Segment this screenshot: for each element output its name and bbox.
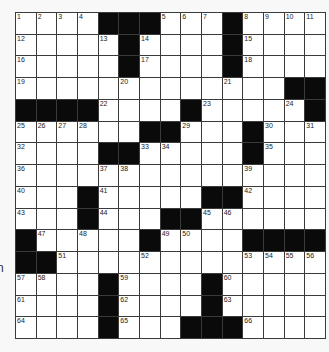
grid-cell[interactable]: 49 (161, 230, 181, 251)
grid-cell[interactable] (37, 165, 57, 186)
grid-cell[interactable] (99, 78, 119, 99)
grid-cell[interactable] (99, 252, 119, 273)
grid-cell[interactable] (264, 165, 284, 186)
grid-cell[interactable]: 62 (119, 296, 139, 317)
grid-cell[interactable] (161, 296, 181, 317)
grid-cell[interactable] (140, 209, 160, 230)
grid-cell[interactable] (78, 165, 98, 186)
grid-cell[interactable]: 24 (285, 100, 305, 121)
grid-cell[interactable] (161, 317, 181, 338)
grid-cell[interactable] (78, 78, 98, 99)
grid-cell[interactable] (37, 317, 57, 338)
grid-cell[interactable]: 47 (37, 230, 57, 251)
grid-cell[interactable] (223, 252, 243, 273)
grid-cell[interactable] (202, 122, 222, 143)
grid-cell[interactable]: 19 (16, 78, 36, 99)
grid-cell[interactable]: 40 (16, 187, 36, 208)
grid-cell[interactable] (223, 122, 243, 143)
grid-cell[interactable]: 66 (243, 317, 263, 338)
grid-cell[interactable]: 15 (243, 35, 263, 56)
grid-cell[interactable]: 59 (119, 274, 139, 295)
grid-cell[interactable] (99, 230, 119, 251)
grid-cell[interactable]: 5 (161, 13, 181, 34)
grid-cell[interactable]: 36 (16, 165, 36, 186)
grid-cell[interactable] (57, 187, 77, 208)
grid-cell[interactable]: 63 (223, 296, 243, 317)
grid-cell[interactable] (243, 100, 263, 121)
grid-cell[interactable]: 64 (16, 317, 36, 338)
grid-cell[interactable] (119, 187, 139, 208)
grid-cell[interactable]: 31 (305, 122, 325, 143)
grid-cell[interactable]: 53 (243, 252, 263, 273)
grid-cell[interactable] (202, 56, 222, 77)
grid-cell[interactable]: 12 (16, 35, 36, 56)
grid-cell[interactable] (181, 296, 201, 317)
grid-cell[interactable] (285, 209, 305, 230)
grid-cell[interactable] (202, 230, 222, 251)
grid-cell[interactable]: 34 (161, 143, 181, 164)
grid-cell[interactable]: 56 (305, 252, 325, 273)
grid-cell[interactable] (305, 317, 325, 338)
grid-cell[interactable] (119, 252, 139, 273)
grid-cell[interactable] (285, 274, 305, 295)
grid-cell[interactable] (181, 274, 201, 295)
grid-cell[interactable]: 37 (99, 165, 119, 186)
grid-cell[interactable] (161, 274, 181, 295)
grid-cell[interactable]: 22 (99, 100, 119, 121)
grid-cell[interactable] (181, 252, 201, 273)
grid-cell[interactable]: 52 (140, 252, 160, 273)
grid-cell[interactable]: 61 (16, 296, 36, 317)
grid-cell[interactable] (161, 100, 181, 121)
grid-cell[interactable] (264, 56, 284, 77)
grid-cell[interactable] (78, 35, 98, 56)
grid-cell[interactable] (57, 209, 77, 230)
grid-cell[interactable] (161, 165, 181, 186)
grid-cell[interactable]: 28 (78, 122, 98, 143)
grid-cell[interactable]: 10 (285, 13, 305, 34)
grid-cell[interactable] (140, 100, 160, 121)
grid-cell[interactable]: 46 (223, 209, 243, 230)
grid-cell[interactable] (264, 317, 284, 338)
grid-cell[interactable]: 30 (264, 122, 284, 143)
grid-cell[interactable]: 33 (140, 143, 160, 164)
grid-cell[interactable]: 16 (16, 56, 36, 77)
grid-cell[interactable] (305, 187, 325, 208)
grid-cell[interactable] (78, 274, 98, 295)
grid-cell[interactable] (305, 56, 325, 77)
grid-cell[interactable] (37, 56, 57, 77)
grid-cell[interactable]: 11 (305, 13, 325, 34)
grid-cell[interactable] (285, 35, 305, 56)
grid-cell[interactable]: 39 (243, 165, 263, 186)
grid-cell[interactable] (305, 274, 325, 295)
grid-cell[interactable]: 48 (78, 230, 98, 251)
grid-cell[interactable]: 13 (99, 35, 119, 56)
grid-cell[interactable] (181, 187, 201, 208)
grid-cell[interactable] (223, 165, 243, 186)
grid-cell[interactable]: 3 (57, 13, 77, 34)
grid-cell[interactable] (57, 78, 77, 99)
grid-cell[interactable]: 9 (264, 13, 284, 34)
grid-cell[interactable]: 6 (181, 13, 201, 34)
grid-cell[interactable] (305, 143, 325, 164)
grid-cell[interactable] (57, 35, 77, 56)
grid-cell[interactable] (264, 209, 284, 230)
grid-cell[interactable]: 8 (243, 13, 263, 34)
grid-cell[interactable] (57, 296, 77, 317)
grid-cell[interactable] (285, 165, 305, 186)
grid-cell[interactable] (37, 187, 57, 208)
grid-cell[interactable] (161, 56, 181, 77)
grid-cell[interactable]: 57 (16, 274, 36, 295)
grid-cell[interactable] (119, 122, 139, 143)
grid-cell[interactable] (140, 274, 160, 295)
grid-cell[interactable] (99, 56, 119, 77)
grid-cell[interactable] (140, 78, 160, 99)
grid-cell[interactable] (57, 56, 77, 77)
grid-cell[interactable] (57, 143, 77, 164)
grid-cell[interactable] (119, 209, 139, 230)
grid-cell[interactable]: 44 (99, 209, 119, 230)
grid-cell[interactable]: 29 (181, 122, 201, 143)
grid-cell[interactable] (243, 209, 263, 230)
grid-cell[interactable] (202, 252, 222, 273)
grid-cell[interactable] (223, 100, 243, 121)
grid-cell[interactable] (181, 165, 201, 186)
